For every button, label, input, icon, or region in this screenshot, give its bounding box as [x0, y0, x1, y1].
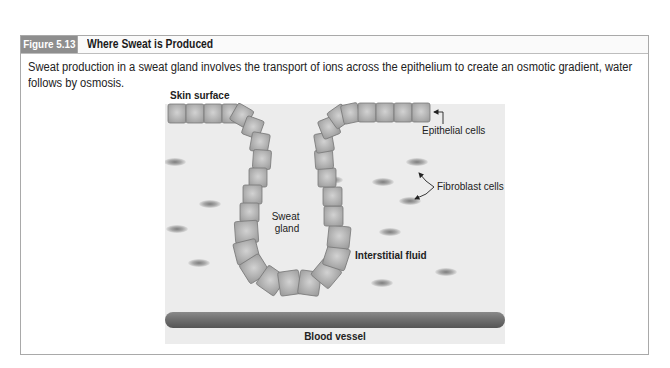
label-skin-surface: Skin surface — [170, 90, 230, 101]
label-interstitial-fluid: Interstitial fluid — [355, 250, 427, 261]
figure-number: Figure 5.13 — [21, 36, 78, 53]
figure-caption: Sweat production in a sweat gland involv… — [28, 59, 642, 91]
label-sweat-gland-line1: Sweat — [272, 211, 300, 222]
label-blood-vessel: Blood vessel — [304, 331, 366, 342]
label-fibroblast-cells: Fibroblast cells — [437, 181, 504, 192]
label-sweat-gland-line2: gland — [275, 223, 299, 234]
blood-vessel — [165, 312, 505, 328]
label-sweat-gland: Sweat gland — [272, 211, 303, 234]
label-epithelial-cells: Epithelial cells — [422, 125, 485, 136]
figure-header: Figure 5.13 Where Sweat is Produced — [21, 36, 648, 54]
sweat-gland-diagram: Skin surface Epithelial cells Fibroblast… — [165, 88, 505, 344]
figure-title: Where Sweat is Produced — [87, 36, 213, 53]
